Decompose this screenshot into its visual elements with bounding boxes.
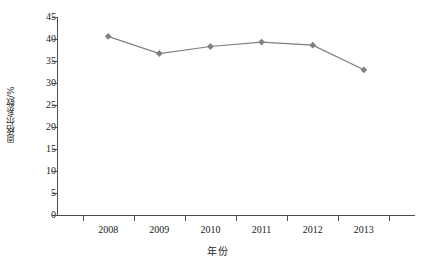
x-axis-tick-mark [185,216,186,221]
y-axis-tick-label: 25 [22,100,56,110]
y-axis-tick-mark [52,61,57,62]
y-axis-tick-mark [52,171,57,172]
y-axis-tick-label: 10 [22,166,56,176]
x-axis-title: 年份 [0,243,436,258]
y-axis-tick-mark [52,149,57,150]
y-axis-tick-mark [52,127,57,128]
y-axis-tick-mark [52,215,57,216]
data-point-marker [258,39,265,46]
x-axis-tick-mark [236,216,237,221]
data-point-marker [156,50,163,57]
x-axis-tick-mark [389,216,390,221]
data-line [108,36,364,69]
y-axis-tick-mark [52,17,57,18]
data-point-marker [309,42,316,49]
x-axis-tick-label: 2013 [334,224,394,235]
y-axis-tick-mark [52,83,57,84]
data-point-marker [207,43,214,50]
y-axis-tick-mark [52,193,57,194]
y-axis-tick-label: 15 [22,144,56,154]
y-axis-tick-label: 40 [22,34,56,44]
y-axis-tick-label: 0 [22,210,56,220]
y-axis-tick-mark [52,39,57,40]
y-axis-tick-label: 35 [22,56,56,66]
y-axis-tick-label: 5 [22,188,56,198]
y-axis-title: 恩格尔系数/% [2,60,18,170]
data-point-marker [105,33,112,40]
x-axis-tick-mark [338,216,339,221]
y-axis-tick-labels: 454035302520151050 [20,0,56,273]
y-axis-tick-label: 20 [22,122,56,132]
x-axis-tick-mark [83,216,84,221]
data-point-markers [105,33,368,73]
data-point-marker [360,66,367,73]
x-axis-tick-mark [287,216,288,221]
y-axis-tick-label: 45 [22,12,56,22]
y-axis-tick-label: 30 [22,78,56,88]
y-axis-line [57,17,58,216]
x-axis-tick-mark [134,216,135,221]
y-axis-tick-mark [52,105,57,106]
line-chart: 恩格尔系数/% 454035302520151050 2008200920102… [0,0,436,273]
